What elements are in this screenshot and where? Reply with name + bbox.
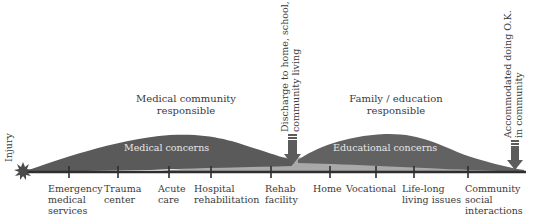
accommodated-milestone-label: Accommodated doing O.K. in community [502, 10, 524, 138]
medical-concerns-label: Medical concerns [124, 142, 209, 153]
stage-trauma-center: Trauma center [104, 183, 141, 205]
stage-home: Home [313, 183, 342, 194]
educational-concerns-label: Educational concerns [333, 142, 437, 153]
medical-responsibility-label: Medical community responsible [130, 93, 242, 117]
stage-hospital-rehabilitation: Hospital rehabilitation [194, 183, 259, 205]
stage-life-long-living-issues: Life-long living issues [402, 183, 461, 205]
family-responsibility-label: Family / education responsible [340, 93, 452, 117]
stage-vocational: Vocational [346, 183, 396, 194]
stage-acute-care: Acute care [158, 183, 186, 205]
injury-label: Injury [3, 133, 14, 162]
starburst-icon [14, 162, 32, 180]
stage-emergency-medical-services: Emergency medical services [48, 183, 103, 216]
stage-rehab-facility: Rehab facility [265, 183, 298, 205]
discharge-milestone-label: Discharge to home, school, community liv… [279, 1, 301, 132]
down-arrow-icon [507, 140, 523, 170]
stage-community-social-interactions: Community social interactions [465, 183, 523, 216]
medical-concerns-area [22, 135, 292, 172]
continuum-of-care-diagram: Injury Medical community responsible Fam… [0, 0, 540, 223]
